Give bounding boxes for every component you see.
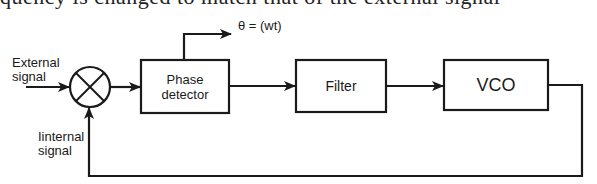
external-signal-label: External signal: [12, 56, 60, 84]
phase-detector-label-line2: detector: [162, 87, 209, 102]
internal-signal-label: Iinternal signal: [38, 130, 84, 158]
internal-signal-label-line2: signal: [38, 144, 84, 158]
mixer-icon: [70, 67, 110, 107]
output-theta-label: θ = (wt): [238, 19, 282, 33]
vco-label: VCO: [444, 60, 548, 110]
internal-signal-label-line1: Iinternal: [38, 130, 84, 144]
external-signal-label-line2: signal: [12, 70, 60, 84]
external-signal-label-line1: External: [12, 56, 60, 70]
phase-detector-label: Phase detector: [141, 60, 229, 113]
phase-detector-label-line1: Phase: [167, 72, 204, 87]
output-theta-arrow: [184, 34, 231, 60]
filter-label: Filter: [296, 60, 386, 112]
